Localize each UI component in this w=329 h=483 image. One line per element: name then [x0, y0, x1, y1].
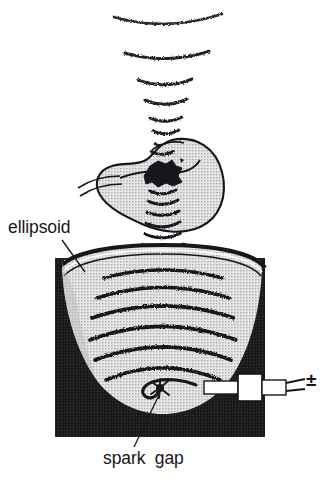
wave-front-5 — [150, 117, 182, 121]
wave-front-3 — [138, 79, 192, 85]
wave-front-6 — [153, 130, 179, 134]
label-spark-gap: spark gap — [103, 450, 184, 468]
converging-wave-fronts — [114, 14, 222, 147]
lithotripsy-figure: ellipsoid spark gap ± — [0, 0, 329, 483]
wave-front-4 — [145, 99, 187, 104]
wave-front-1 — [114, 14, 222, 24]
connector-sleeve-inner — [204, 381, 238, 394]
power-leads — [286, 379, 305, 391]
wave-front-2 — [125, 51, 210, 59]
connector-body — [238, 374, 262, 401]
label-ellipsoid: ellipsoid — [8, 219, 70, 237]
label-polarity: ± — [306, 370, 316, 389]
connector-sleeve-outer — [262, 380, 286, 395]
lithotripsy-diagram-canvas — [0, 0, 329, 483]
